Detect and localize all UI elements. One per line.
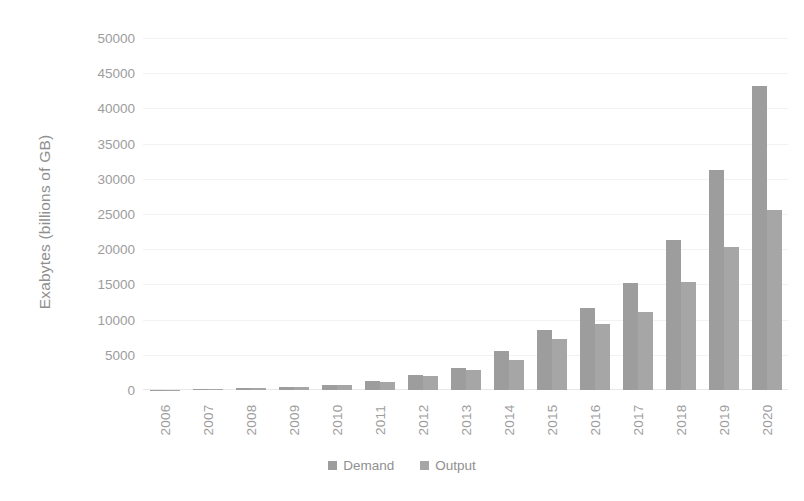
bar-group — [229, 38, 272, 390]
bar-group — [186, 38, 229, 390]
x-axis-tick-label: 2012 — [415, 405, 430, 436]
bar-group — [616, 38, 659, 390]
bar-demand-2016 — [580, 308, 595, 390]
bar-output-2006 — [165, 390, 180, 391]
bar-demand-2014 — [494, 351, 509, 390]
x-axis-tick-label: 2009 — [286, 405, 301, 436]
bar-group — [702, 38, 745, 390]
x-axis-tick-cell: 2020 — [745, 394, 788, 456]
x-axis-tick-label: 2018 — [673, 405, 688, 436]
legend-item-output[interactable]: Output — [420, 458, 476, 473]
bar-group — [487, 38, 530, 390]
x-axis-tick-label: 2015 — [544, 405, 559, 436]
x-axis-tick-labels: 2006200720082009201020112012201320142015… — [143, 394, 788, 456]
bar-group — [143, 38, 186, 390]
bar-demand-2017 — [623, 283, 638, 390]
legend-swatch-icon — [328, 461, 337, 470]
y-axis-tick-label: 45000 — [60, 66, 135, 81]
y-axis-tick-label: 30000 — [60, 171, 135, 186]
bar-output-2016 — [595, 324, 610, 390]
bar-group — [358, 38, 401, 390]
bar-group — [444, 38, 487, 390]
bar-demand-2006 — [150, 390, 165, 391]
y-axis-tick-label: 10000 — [60, 312, 135, 327]
y-axis-tick-label: 5000 — [60, 347, 135, 362]
x-axis-tick-cell: 2019 — [702, 394, 745, 456]
bar-output-2020 — [767, 210, 782, 390]
x-axis-tick-label: 2019 — [716, 405, 731, 436]
y-axis-title: Exabytes (billions of GB) — [36, 0, 58, 72]
y-axis-tick-label: 20000 — [60, 242, 135, 257]
bar-group — [401, 38, 444, 390]
bar-group — [573, 38, 616, 390]
legend-item-demand[interactable]: Demand — [328, 458, 394, 473]
x-axis-tick-label: 2013 — [458, 405, 473, 436]
bar-output-2012 — [423, 376, 438, 390]
legend-label: Output — [435, 458, 476, 473]
x-axis-tick-label: 2017 — [630, 405, 645, 436]
chart-legend: DemandOutput — [0, 458, 804, 473]
chart-container: Exabytes (billions of GB) 05000100001500… — [0, 0, 804, 501]
x-axis-tick-cell: 2007 — [186, 394, 229, 456]
bar-demand-2019 — [709, 170, 724, 390]
bar-group — [659, 38, 702, 390]
x-axis-tick-cell: 2010 — [315, 394, 358, 456]
x-axis-tick-cell: 2018 — [659, 394, 702, 456]
bar-output-2011 — [380, 382, 395, 390]
x-axis-tick-label: 2016 — [587, 405, 602, 436]
bar-output-2017 — [638, 312, 653, 390]
x-axis-tick-cell: 2016 — [573, 394, 616, 456]
bar-demand-2018 — [666, 240, 681, 390]
x-axis-tick-label: 2006 — [157, 405, 172, 436]
bar-output-2008 — [251, 388, 266, 390]
bar-demand-2013 — [451, 368, 466, 390]
bar-demand-2020 — [752, 86, 767, 390]
y-axis-tick-label: 40000 — [60, 101, 135, 116]
bar-demand-2009 — [279, 387, 294, 390]
x-axis-tick-label: 2008 — [243, 405, 258, 436]
bar-group — [315, 38, 358, 390]
x-axis-tick-cell: 2009 — [272, 394, 315, 456]
x-axis-tick-cell: 2011 — [358, 394, 401, 456]
bar-group — [530, 38, 573, 390]
bar-demand-2011 — [365, 381, 380, 390]
x-axis-tick-label: 2014 — [501, 405, 516, 436]
bar-output-2013 — [466, 370, 481, 390]
x-axis-tick-cell: 2017 — [616, 394, 659, 456]
x-axis-tick-cell: 2014 — [487, 394, 530, 456]
bar-demand-2012 — [408, 375, 423, 390]
y-axis-tick-labels: 0500010000150002000025000300003500040000… — [60, 38, 135, 390]
y-axis-tick-label: 35000 — [60, 136, 135, 151]
bar-demand-2007 — [193, 389, 208, 390]
x-axis-tick-label: 2020 — [759, 405, 774, 436]
bar-demand-2010 — [322, 385, 337, 390]
bar-group — [272, 38, 315, 390]
bar-group — [745, 38, 788, 390]
x-axis-tick-cell: 2015 — [530, 394, 573, 456]
x-axis-tick-label: 2011 — [372, 405, 387, 435]
bar-demand-2008 — [236, 388, 251, 390]
y-axis-tick-label: 50000 — [60, 31, 135, 46]
x-axis-tick-cell: 2013 — [444, 394, 487, 456]
x-axis-tick-cell: 2008 — [229, 394, 272, 456]
bar-output-2009 — [294, 387, 309, 390]
x-axis-tick-label: 2010 — [329, 405, 344, 436]
bar-series-layer — [143, 38, 788, 390]
legend-label: Demand — [343, 458, 394, 473]
y-axis-title-text: Exabytes (billions of GB) — [36, 72, 54, 372]
bar-output-2014 — [509, 360, 524, 390]
y-axis-tick-label: 0 — [60, 383, 135, 398]
bar-output-2019 — [724, 247, 739, 390]
bar-output-2010 — [337, 385, 352, 390]
bar-output-2007 — [208, 389, 223, 390]
bar-output-2015 — [552, 339, 567, 390]
legend-swatch-icon — [420, 461, 429, 470]
x-axis-tick-label: 2007 — [200, 405, 215, 436]
y-axis-tick-label: 15000 — [60, 277, 135, 292]
y-axis-tick-label: 25000 — [60, 207, 135, 222]
bar-output-2018 — [681, 282, 696, 390]
bar-demand-2015 — [537, 330, 552, 390]
x-axis-tick-cell: 2012 — [401, 394, 444, 456]
x-axis-tick-cell: 2006 — [143, 394, 186, 456]
